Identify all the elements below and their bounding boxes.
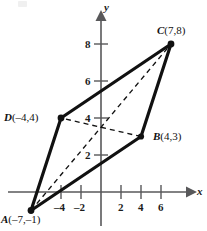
vertex-b-dot (138, 133, 144, 139)
point-label-d: D(–4,4) (4, 112, 39, 123)
x-axis-arrow-icon (186, 187, 197, 198)
point-d-name: D (4, 111, 12, 123)
y-tick-label-2: 2 (85, 150, 91, 161)
x-axis-label: x (197, 186, 203, 197)
x-tick-label--4: –4 (54, 202, 65, 213)
y-tick-label-8: 8 (85, 39, 91, 50)
coordinate-plane-figure: x y –4 –2 2 4 6 2 4 6 8 A(–7,–1) B(4,3) … (0, 0, 207, 231)
y-axis-label: y (104, 2, 109, 13)
y-tick-label-6: 6 (85, 76, 91, 87)
point-label-b: B(4,3) (153, 131, 181, 142)
vertex-d-dot (58, 115, 65, 122)
point-d-coords: (–4,4) (12, 111, 39, 123)
x-tick-label-6: 6 (158, 202, 164, 213)
point-label-a: A(–7,–1) (1, 214, 40, 225)
vertex-c-dot (168, 41, 175, 48)
x-tick-label-4: 4 (138, 202, 144, 213)
y-tick-label-4: 4 (85, 113, 91, 124)
point-b-coords: (4,3) (160, 130, 181, 142)
x-tick-label-2: 2 (118, 202, 124, 213)
point-c-coords: (7,8) (164, 24, 185, 36)
point-a-coords: (–7,–1) (8, 213, 40, 225)
x-tick-label--2: –2 (74, 202, 85, 213)
point-label-c: C(7,8) (157, 25, 185, 36)
